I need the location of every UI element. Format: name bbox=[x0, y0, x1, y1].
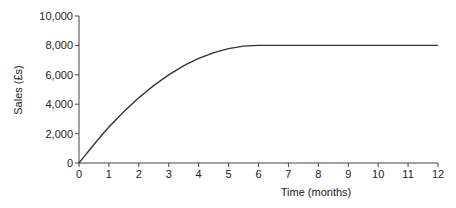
y-axis: 02,0004,0006,0008,00010,000 bbox=[39, 10, 79, 169]
x-tick-label: 10 bbox=[372, 168, 384, 180]
x-tick-label: 4 bbox=[196, 168, 202, 180]
x-axis: 0123456789101112 bbox=[76, 163, 444, 180]
y-axis-title: Sales (£s) bbox=[12, 65, 24, 115]
x-tick-label: 12 bbox=[432, 168, 444, 180]
x-tick-label: 0 bbox=[76, 168, 82, 180]
x-axis-title: Time (months) bbox=[281, 186, 352, 198]
x-tick-label: 2 bbox=[136, 168, 142, 180]
x-tick-label: 11 bbox=[402, 168, 413, 180]
sales-chart: 02,0004,0006,0008,00010,000 012345678910… bbox=[0, 0, 456, 208]
y-tick-label: 4,000 bbox=[45, 98, 73, 110]
y-tick-label: 10,000 bbox=[39, 10, 73, 22]
x-tick-label: 3 bbox=[166, 168, 172, 180]
x-tick-label: 5 bbox=[226, 168, 232, 180]
x-tick-label: 8 bbox=[315, 168, 321, 180]
y-tick-label: 2,000 bbox=[45, 128, 73, 140]
x-tick-label: 6 bbox=[255, 168, 261, 180]
sales-curve bbox=[79, 45, 438, 163]
y-tick-label: 0 bbox=[67, 157, 73, 169]
y-tick-label: 8,000 bbox=[45, 39, 73, 51]
x-tick-label: 9 bbox=[345, 168, 351, 180]
x-tick-label: 1 bbox=[106, 168, 112, 180]
x-tick-label: 7 bbox=[285, 168, 291, 180]
y-tick-label: 6,000 bbox=[45, 69, 73, 81]
